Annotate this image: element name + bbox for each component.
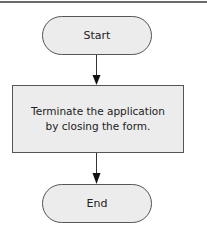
terminate-process-box: Terminate the application by closing the… xyxy=(12,85,184,153)
process-line-1: Terminate the application xyxy=(31,104,165,119)
arrow-process-to-end xyxy=(93,152,101,184)
process-line-2: by closing the form. xyxy=(31,119,165,134)
process-text: Terminate the application by closing the… xyxy=(31,104,165,134)
arrow-start-to-process xyxy=(93,54,101,85)
end-terminal: End xyxy=(42,184,152,223)
start-label: Start xyxy=(84,29,111,42)
start-terminal: Start xyxy=(42,16,152,55)
end-label: End xyxy=(87,197,108,210)
